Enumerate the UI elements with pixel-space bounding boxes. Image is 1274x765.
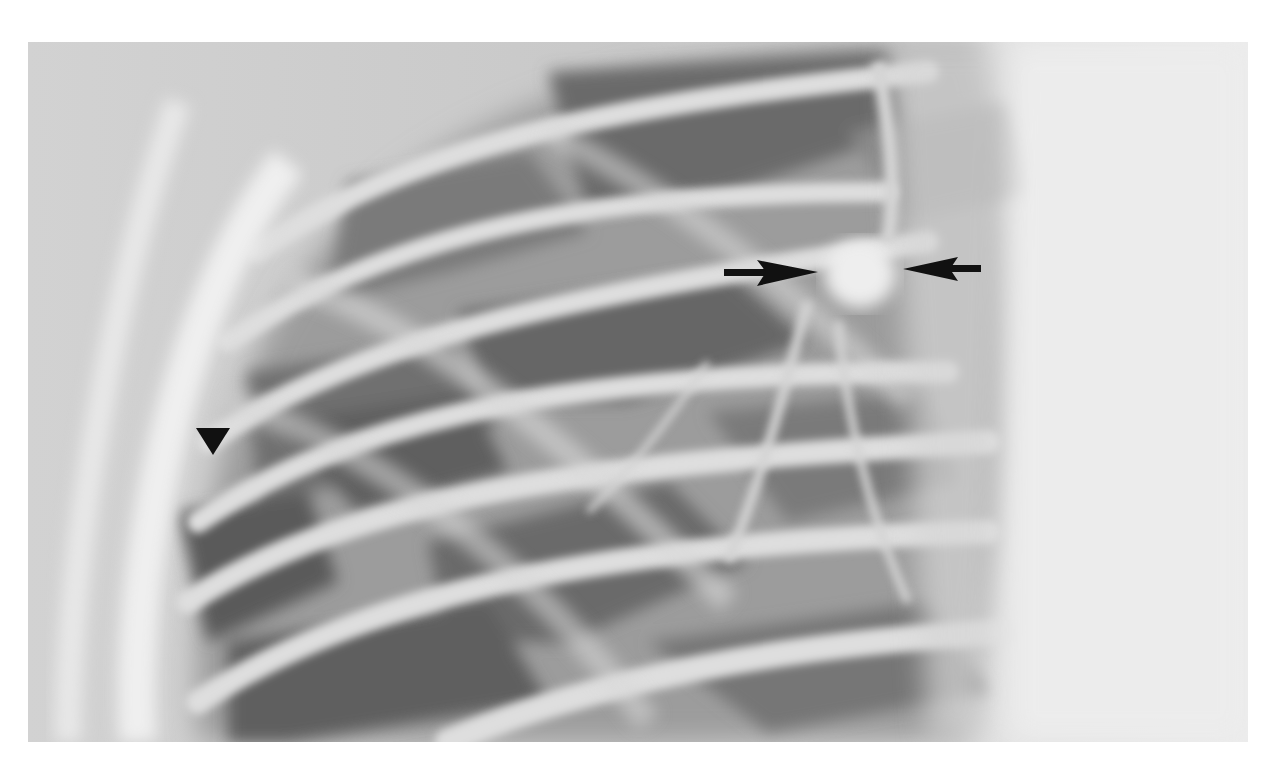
mediastinum (888, 42, 1248, 742)
nodule-opacity (824, 240, 896, 308)
radiograph-graphic (28, 42, 1248, 742)
radiograph-image (28, 42, 1248, 742)
